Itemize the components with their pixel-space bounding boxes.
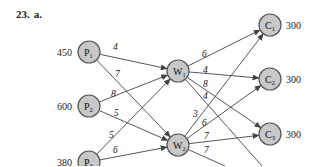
- nodes: P1450P2600P3380W1W2C1300C2300C3300: [57, 14, 301, 166]
- node-c2: C2300: [259, 68, 301, 90]
- demand-value: 300: [286, 20, 301, 31]
- edge-w2-c3: [189, 135, 259, 143]
- node-p1: P1450: [57, 41, 100, 63]
- supply-value: 450: [57, 47, 72, 58]
- edge-cost-label: 5: [109, 130, 114, 140]
- node-c3: C3300: [259, 123, 301, 145]
- edge-w1-c2: [189, 72, 259, 78]
- edge-cost-label: 7: [204, 145, 210, 155]
- edge-cost-label: 7: [204, 131, 210, 141]
- edge-p3-w1: [97, 79, 171, 154]
- edge-cost-label: 3: [192, 109, 198, 119]
- edge-cost-label: 6: [202, 118, 207, 128]
- edge-cost-label: 8: [203, 79, 208, 89]
- edge-cost-label: 8: [111, 89, 116, 99]
- edge-cost-label: 4: [113, 42, 118, 52]
- edge-cost-label: 7: [115, 69, 121, 79]
- node-w2: W2: [167, 134, 189, 156]
- node-p3: P3380: [57, 151, 100, 166]
- problem-number: 23.a.: [16, 8, 42, 20]
- supply-value: 600: [57, 101, 72, 112]
- edge-cost-label: 6: [113, 145, 118, 155]
- node-c1: C1300: [259, 14, 301, 36]
- edge-w1-c1: [188, 30, 260, 66]
- node-w1: W1: [167, 60, 189, 82]
- edge-cost-label: 5: [114, 108, 119, 118]
- edge-cost-label: 4: [203, 65, 208, 75]
- demand-value: 300: [286, 74, 301, 85]
- demand-value: 300: [286, 129, 301, 140]
- node-p2: P2600: [57, 95, 100, 117]
- edge-cost-label: 4: [203, 91, 208, 101]
- transshipment-network-diagram: 23.a. 47855664843677 P1450P2600P3380W1W2…: [0, 0, 320, 166]
- edge-p1-w1: [100, 54, 167, 68]
- edge-p3-w2: [100, 147, 167, 160]
- supply-value: 380: [57, 157, 72, 167]
- edge-cost-label: 6: [202, 49, 207, 59]
